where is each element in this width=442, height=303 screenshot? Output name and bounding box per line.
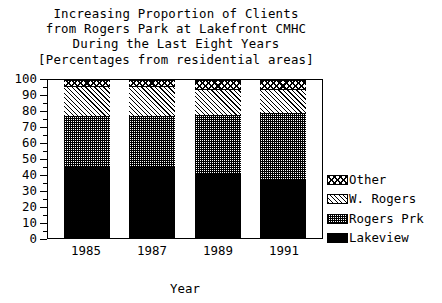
y-axis-major-tick [40, 175, 47, 176]
legend-swatch-lakeview [327, 233, 348, 243]
legend-item-other: Other [327, 170, 439, 190]
bar-segment-rogers-prk-1987 [129, 116, 175, 167]
bar-segment-other-1991 [260, 80, 306, 89]
legend-item-rogers-prk: Rogers Prk [327, 209, 439, 229]
y-axis-major-tick [40, 79, 47, 80]
y-axis-tick-label: 40 [22, 169, 37, 181]
bar-segment-w-rogers-1991 [260, 89, 306, 113]
legend-label-w-rogers: W. Rogers [349, 193, 416, 205]
x-axis-tick-label-1985: 1985 [63, 244, 109, 260]
chart-title-line-4: [Percentages from residential areas] [0, 52, 352, 67]
bar-segment-other-1989 [195, 80, 241, 89]
bar-segment-rogers-prk-1989 [195, 115, 241, 173]
legend-label-other: Other [349, 174, 386, 186]
bar-segment-rogers-prk-1991 [260, 113, 306, 179]
chart-title-line-2: from Rogers Park at Lakefront CMHC [0, 21, 352, 36]
bar-1987 [129, 80, 175, 238]
legend-swatch-rogers-prk [327, 214, 348, 224]
bar-segment-w-rogers-1989 [195, 89, 241, 114]
legend-swatch-w-rogers [327, 194, 348, 204]
bar-segment-lakeview-1985 [64, 167, 110, 238]
x-axis-tick-labels: 1985198719891991 [47, 244, 323, 260]
y-axis-major-tick [40, 159, 47, 160]
y-axis-tick-label: 30 [22, 185, 37, 197]
plot-area [47, 79, 323, 239]
chart-title-line-3: During the Last Eight Years [0, 36, 352, 51]
y-axis-major-tick [40, 143, 47, 144]
legend-swatch-other [327, 175, 348, 185]
y-axis-major-tick [40, 223, 47, 224]
y-axis-tick-label: 60 [22, 137, 37, 149]
bar-segment-w-rogers-1985 [64, 86, 110, 116]
y-axis-major-tick [40, 127, 47, 128]
bar-1985 [64, 80, 110, 238]
y-axis-tick-label: 80 [22, 105, 37, 117]
y-axis-tick-label: 50 [22, 153, 37, 165]
chart-root: Increasing Proportion of Clients from Ro… [0, 0, 442, 303]
bar-segment-lakeview-1989 [195, 173, 241, 238]
legend-label-rogers-prk: Rogers Prk [349, 213, 424, 225]
legend-item-w-rogers: W. Rogers [327, 190, 439, 210]
y-axis-tick-label: 70 [22, 121, 37, 133]
y-axis-tick-label: 90 [22, 89, 37, 101]
y-axis-major-tick [40, 207, 47, 208]
y-axis-major-tick [40, 239, 47, 240]
bar-1989 [195, 80, 241, 238]
y-axis-major-tick [40, 111, 47, 112]
bar-1991 [260, 80, 306, 238]
y-axis-tick-label: 100 [15, 73, 37, 85]
y-axis-tick-label: 0 [30, 233, 37, 245]
chart-title-line-1: Increasing Proportion of Clients [0, 6, 352, 21]
bar-segment-w-rogers-1987 [129, 86, 175, 116]
x-axis-tick-label-1987: 1987 [129, 244, 175, 260]
y-axis-major-tick [40, 191, 47, 192]
bar-group [48, 80, 322, 238]
y-axis-tick-label: 10 [22, 217, 37, 229]
legend-label-lakeview: Lakeview [349, 232, 409, 244]
legend-item-lakeview: Lakeview [327, 229, 439, 249]
x-axis-tick-label-1989: 1989 [195, 244, 241, 260]
x-axis-title: Year [47, 281, 323, 296]
bar-segment-lakeview-1987 [129, 167, 175, 238]
y-axis-major-tick [40, 95, 47, 96]
bar-segment-lakeview-1991 [260, 180, 306, 238]
y-axis-tick-label: 20 [22, 201, 37, 213]
chart-title: Increasing Proportion of Clients from Ro… [0, 6, 352, 67]
x-axis-tick-label-1991: 1991 [261, 244, 307, 260]
chart-legend: OtherW. RogersRogers PrkLakeview [327, 170, 439, 248]
bar-segment-rogers-prk-1985 [64, 116, 110, 167]
